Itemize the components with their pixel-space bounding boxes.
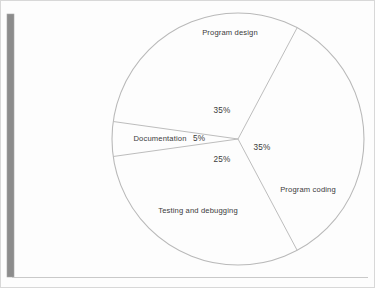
slice-value-program-coding: 35%	[254, 143, 271, 152]
slice-label-program-design: Program design	[202, 28, 258, 37]
slice-value-documentation: 5%	[193, 134, 205, 143]
vertical-axis-bar	[7, 14, 14, 277]
slice-value-testing-and-debugging: 25%	[214, 155, 231, 164]
figure-border	[1, 1, 375, 288]
slice-label-testing-and-debugging: Testing and debugging	[158, 206, 238, 215]
figure-canvas: Program design Program coding Testing an…	[0, 0, 375, 288]
slice-label-program-coding: Program coding	[280, 185, 336, 194]
pie-chart: Program design Program coding Testing an…	[0, 0, 375, 288]
slice-label-documentation: Documentation	[133, 134, 186, 143]
slice-value-program-design: 35%	[214, 106, 231, 115]
